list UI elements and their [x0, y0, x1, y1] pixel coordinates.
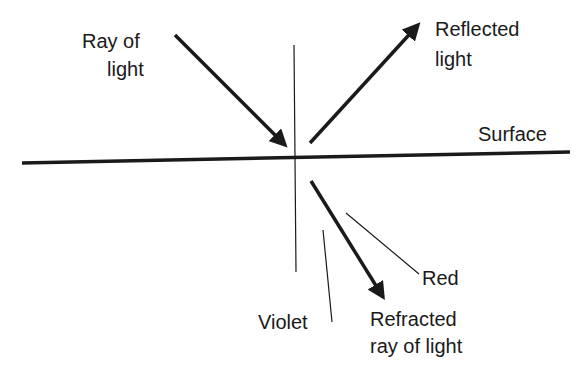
reflected-ray-arrow [310, 25, 418, 143]
optics-diagram: Ray of light Reflected light Surface Red… [0, 0, 588, 390]
red-leader-line [346, 213, 419, 274]
reflected-label-line2: light [435, 47, 472, 71]
reflected-label-line1: Reflected [435, 17, 520, 41]
surface-line [22, 152, 570, 163]
incident-label-line2: light [107, 57, 144, 81]
refracted-label-line1: Refracted [370, 307, 457, 331]
incident-label-line1: Ray of [82, 29, 140, 53]
surface-label: Surface [478, 122, 547, 146]
refracted-ray-arrow [311, 181, 383, 297]
violet-label: Violet [258, 310, 308, 334]
refracted-label-line2: ray of light [370, 334, 462, 358]
red-label: Red [422, 266, 459, 290]
violet-leader-line [323, 230, 332, 322]
incident-ray-arrow [175, 35, 285, 145]
